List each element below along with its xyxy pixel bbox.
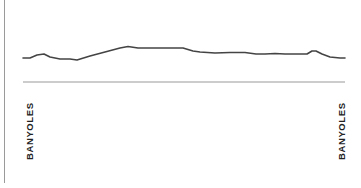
elevation-profile-line (23, 47, 345, 61)
left-axis-line (4, 0, 5, 183)
end-location-label: BANYOLES (336, 102, 347, 160)
elevation-profile-chart (0, 0, 361, 188)
start-location-label: BANYOLES (24, 102, 35, 160)
